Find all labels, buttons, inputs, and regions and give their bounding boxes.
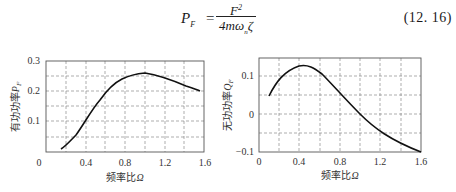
left-chart: 0.3 0.2 0.1 0 0.4 0.8 1.2 1.6 频率比Ω 有功功率P…: [9, 55, 211, 183]
left-xtick-0: 0: [37, 157, 42, 168]
right-xtick-0.4: 0.4: [293, 156, 306, 167]
right-xticks: 0 0.4 0.8 1.2 1.6: [257, 156, 428, 167]
right-xtick-1.2: 1.2: [374, 156, 387, 167]
left-xtick-0.8: 0.8: [119, 157, 132, 168]
left-xtick-1.2: 1.2: [159, 157, 172, 168]
left-ytick-0.3: 0.3: [28, 55, 41, 66]
right-ytick-neg0.1: −0.1: [236, 146, 254, 157]
right-xtick-0.8: 0.8: [334, 156, 347, 167]
right-ytick-0.1: 0.1: [242, 70, 255, 81]
right-chart: 0.1 0 −0.1 0 0.4 0.8 1.2 1.6 频率比Ω 无功功率QF: [221, 58, 427, 181]
left-grid: [46, 61, 204, 152]
left-xtick-0.4: 0.4: [80, 157, 93, 168]
left-ylabel: 有功功率PF: [9, 81, 23, 132]
right-xlabel: 频率比Ω: [321, 169, 358, 181]
left-yticks: 0.3 0.2 0.1: [28, 55, 41, 126]
left-ytick-0.2: 0.2: [28, 85, 41, 96]
right-yticks: 0.1 0 −0.1: [236, 70, 254, 157]
right-xtick-0: 0: [257, 156, 262, 167]
left-xtick-1.6: 1.6: [199, 157, 212, 168]
right-ylabel: 无功功率QF: [221, 79, 235, 131]
right-ytick-0: 0: [249, 109, 254, 120]
right-grid: [259, 58, 421, 152]
right-xtick-1.6: 1.6: [415, 156, 428, 167]
charts-figure: 0.3 0.2 0.1 0 0.4 0.8 1.2 1.6 频率比Ω 有功功率P…: [0, 0, 456, 192]
left-xticks: 0 0.4 0.8 1.2 1.6: [37, 157, 212, 168]
left-curve-active-power: [61, 73, 200, 149]
right-curve-reactive-power: [269, 65, 421, 152]
left-ytick-0.1: 0.1: [28, 115, 41, 126]
left-xlabel: 频率比Ω: [106, 171, 143, 183]
